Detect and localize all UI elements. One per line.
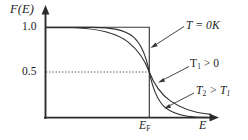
temperature-two-relation: > T [209, 84, 226, 96]
temperature-two-subscript: 2 [203, 89, 207, 98]
temperature-two-reference-subscript: 1 [227, 89, 231, 98]
y-axis [42, 5, 50, 118]
annotation-pointer-temperature-one [158, 67, 189, 83]
x-tick-label-fermi-energy: EF [139, 120, 150, 132]
temperature-one-subscript: 1 [197, 62, 201, 71]
annotation-pointer-zero-kelvin [151, 27, 185, 49]
y-axis-label: F(E) [10, 3, 34, 16]
pointer-head-temperature-two [164, 104, 171, 109]
y-tick-label-one-point-zero: 1.0 [22, 21, 37, 33]
fermi-dirac-distribution-figure: F(E) 1.0 0.5 EF E T = 0K T1 > 0 T2 > T1 [0, 0, 248, 140]
y-axis-arrowhead [42, 5, 50, 15]
temperature-one-relation: > 0 [204, 57, 219, 69]
annotation-label-temperature-two: T2 > T1 [196, 85, 230, 97]
x-axis-label: E [199, 119, 206, 131]
x-axis [45, 114, 219, 122]
annotation-label-zero-kelvin: T = 0K [186, 20, 220, 32]
curve-temperature-two [46, 28, 211, 115]
pointer-line-temperature-one [162, 67, 189, 81]
pointer-line-temperature-two [168, 93, 194, 107]
annotation-label-temperature-one: T1 > 0 [190, 58, 219, 70]
pointer-head-zero-kelvin [151, 43, 158, 48]
pointer-head-temperature-one [158, 78, 165, 83]
fermi-energy-subscript: F [146, 124, 150, 133]
pointer-line-zero-kelvin [155, 27, 185, 46]
y-tick-label-zero-point-five: 0.5 [22, 66, 37, 78]
